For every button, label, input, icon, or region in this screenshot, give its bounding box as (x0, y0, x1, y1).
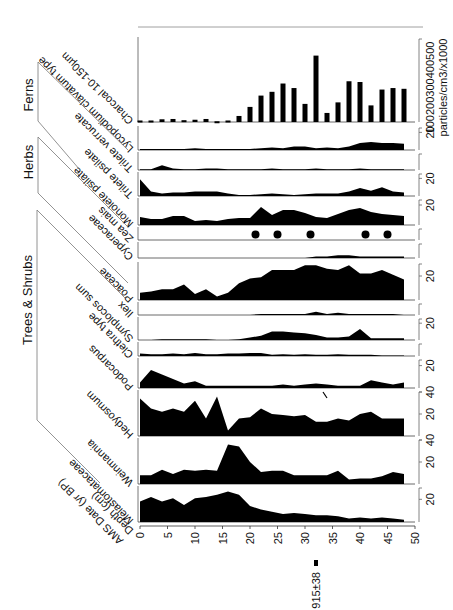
svg-text:20: 20 (424, 456, 436, 468)
svg-text:35: 35 (327, 532, 339, 544)
taxon-label: Poaceae (96, 266, 135, 305)
svg-text:20: 20 (424, 172, 436, 184)
panel-poaceae: 20 (138, 262, 436, 300)
panel-melastomataceae: 20 (138, 486, 436, 522)
panel-charcoal-10-150-m (138, 27, 424, 123)
svg-text:10: 10 (189, 532, 201, 544)
panel-zea-mais (138, 227, 422, 240)
panel-ilex (138, 302, 422, 315)
panel-weinmannia: 2040 (138, 434, 436, 484)
svg-text:45: 45 (382, 532, 394, 544)
svg-text:20: 20 (424, 359, 436, 371)
pollen-diagram: 2020402040202020202020 100200300400500pa… (0, 0, 453, 610)
panel-monolete-psilate: 20 (138, 198, 436, 225)
svg-text:20: 20 (424, 493, 436, 505)
svg-text:Ferns: Ferns (21, 78, 36, 112)
svg-text:50: 50 (409, 532, 421, 544)
panel-trilete-psilate: 20 (138, 172, 436, 196)
panel-hedyosmum: 2040 (138, 386, 436, 436)
svg-text:30: 30 (299, 532, 311, 544)
taxon-panels: 2020402040202020202020 (138, 27, 437, 522)
svg-text:915±38: 915±38 (310, 572, 322, 609)
panel-trilete-verrucate (138, 152, 422, 170)
svg-text:15: 15 (217, 532, 229, 544)
svg-text:Herbs: Herbs (21, 144, 36, 179)
taxon-label: Hedyosmum (83, 389, 135, 441)
svg-text:25: 25 (272, 532, 284, 544)
svg-text:20: 20 (424, 199, 436, 211)
svg-text:particles/cm3/x1000: particles/cm3/x1000 (437, 39, 449, 137)
svg-text:5: 5 (162, 532, 174, 538)
panel-symplocos-sum: 20 (138, 317, 436, 340)
svg-text:100200300400500: 100200300400500 (424, 42, 436, 134)
panel-lycopodium-clavatum-type: 20 (138, 126, 436, 150)
svg-text:40: 40 (424, 434, 436, 446)
panel-podocarpus: 20 (138, 358, 436, 388)
panel-clethra-type (138, 342, 422, 356)
svg-text:20: 20 (244, 532, 256, 544)
svg-text:40: 40 (354, 532, 366, 544)
svg-text:Trees & Shrubs: Trees & Shrubs (20, 255, 35, 345)
svg-text:20: 20 (424, 317, 436, 329)
svg-text:0: 0 (134, 532, 146, 538)
svg-text:20: 20 (424, 270, 436, 282)
svg-text:20: 20 (424, 408, 436, 420)
taxon-labels: MelastomataceaeWeinmanniaHedyosmumPodoca… (35, 50, 135, 527)
panel-cyperaceae (138, 242, 422, 258)
svg-text:40: 40 (424, 386, 436, 398)
